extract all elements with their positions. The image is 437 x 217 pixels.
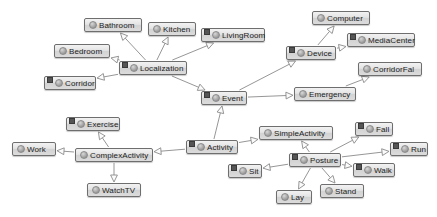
class-node-event[interactable]: Event — [201, 91, 247, 105]
class-node-emergency[interactable]: Emergency — [294, 87, 356, 101]
class-node-label: Exercise — [87, 120, 118, 129]
hollow-triangle-arrow-icon — [263, 164, 270, 171]
class-node-fall[interactable]: Fall — [355, 122, 393, 136]
generalization-edge-walk-to-posture — [342, 162, 352, 169]
class-node-computer[interactable]: Computer — [312, 11, 370, 25]
class-circle-icon — [80, 151, 88, 159]
class-node-label: Event — [222, 94, 243, 103]
abstract-square-icon — [358, 123, 364, 129]
generalization-edge-sit-to-posture — [263, 164, 288, 171]
hollow-triangle-arrow-icon — [339, 44, 347, 51]
hollow-triangle-arrow-icon — [382, 149, 389, 156]
class-node-label: Stand — [335, 187, 356, 196]
class-node-work[interactable]: Work — [12, 142, 56, 156]
class-node-label: ComplexActivity — [90, 151, 148, 160]
generalization-edge-stand-to-posture — [322, 168, 335, 183]
class-circle-icon — [130, 64, 138, 72]
class-node-run[interactable]: Run — [390, 142, 428, 156]
hollow-triangle-arrow-icon — [206, 43, 214, 49]
abstract-square-icon — [189, 141, 195, 147]
abstract-square-icon — [47, 77, 53, 83]
class-node-corridorfal[interactable]: CorridorFal — [358, 62, 422, 76]
hollow-triangle-arrow-icon — [162, 37, 168, 45]
abstract-square-icon — [350, 34, 356, 40]
class-node-device[interactable]: Device — [286, 46, 336, 60]
class-node-sit[interactable]: Sit — [228, 164, 262, 178]
class-node-watchtv[interactable]: WatchTV — [87, 183, 141, 197]
generalization-edge-simpleactivity-to-posture — [302, 141, 310, 152]
hollow-triangle-arrow-icon — [299, 181, 305, 189]
class-circle-icon — [363, 65, 371, 73]
class-node-simpleactivity[interactable]: SimpleActivity — [259, 126, 333, 140]
generalization-edge-event-to-activity — [214, 106, 224, 139]
class-node-label: Device — [307, 49, 332, 58]
class-node-label: Bathroom — [99, 21, 134, 30]
class-node-label: Computer — [327, 14, 363, 23]
hollow-triangle-arrow-icon — [286, 92, 293, 99]
generalization-edge-kitchen-to-localization — [157, 37, 168, 60]
abstract-square-icon — [231, 165, 237, 171]
class-node-label: Lay — [291, 193, 304, 202]
hollow-triangle-arrow-icon — [288, 61, 296, 67]
class-circle-icon — [239, 167, 247, 175]
class-circle-icon — [55, 79, 63, 87]
class-node-walk[interactable]: Walk — [353, 163, 395, 177]
generalization-edge-exercise-to-complexactivity — [98, 132, 108, 147]
class-circle-icon — [358, 36, 366, 44]
generalization-edge-mediacenter-to-device — [337, 44, 346, 51]
class-node-mediacenter[interactable]: MediaCenter — [347, 33, 415, 47]
class-circle-icon — [77, 120, 85, 128]
class-node-label: Run — [411, 145, 426, 154]
abstract-square-icon — [204, 92, 210, 98]
class-circle-icon — [17, 145, 25, 153]
hollow-triangle-arrow-icon — [345, 162, 352, 169]
class-circle-icon — [299, 90, 307, 98]
abstract-square-icon — [69, 118, 75, 124]
generalization-edge-run-to-posture — [342, 149, 389, 157]
class-node-complexactivity[interactable]: ComplexActivity — [75, 148, 153, 162]
class-node-lay[interactable]: Lay — [276, 190, 312, 204]
class-circle-icon — [89, 21, 97, 29]
class-node-posture[interactable]: Posture — [289, 153, 341, 167]
class-node-label: Corridor — [65, 79, 95, 88]
class-node-stand[interactable]: Stand — [320, 184, 364, 198]
class-node-bedroom[interactable]: Bedroom — [54, 44, 110, 58]
hollow-triangle-arrow-icon — [251, 137, 258, 144]
abstract-square-icon — [393, 143, 399, 149]
abstract-square-icon — [289, 47, 295, 53]
class-node-label: WatchTV — [102, 186, 135, 195]
class-node-label: Localization — [140, 64, 183, 73]
hollow-triangle-arrow-icon — [111, 56, 119, 63]
class-circle-icon — [264, 129, 272, 137]
class-node-bathroom[interactable]: Bathroom — [84, 18, 142, 32]
generalization-edge-livingroom-to-localization — [172, 43, 213, 60]
class-node-livingroom[interactable]: LivingRoom — [201, 28, 265, 42]
generalization-edge-bathroom-to-localization — [120, 33, 145, 60]
diagram-canvas[interactable]: BathroomKitchenLivingRoomBedroomCorridor… — [0, 0, 437, 217]
hollow-triangle-arrow-icon — [351, 137, 359, 143]
class-circle-icon — [197, 143, 205, 151]
hollow-triangle-arrow-icon — [217, 106, 224, 114]
generalization-edge-device-to-event — [239, 61, 295, 90]
class-node-exercise[interactable]: Exercise — [66, 117, 120, 131]
class-circle-icon — [401, 145, 409, 153]
class-node-localization[interactable]: Localization — [119, 61, 187, 75]
class-node-label: MediaCenter — [368, 36, 415, 45]
hollow-triangle-arrow-icon — [361, 76, 369, 82]
class-circle-icon — [59, 47, 67, 55]
class-node-activity[interactable]: Activity — [186, 140, 238, 154]
class-circle-icon — [153, 25, 161, 33]
class-node-label: Posture — [310, 156, 338, 165]
class-node-kitchen[interactable]: Kitchen — [148, 22, 196, 36]
hollow-triangle-arrow-icon — [302, 141, 309, 149]
hollow-triangle-arrow-icon — [154, 148, 161, 155]
class-circle-icon — [366, 125, 374, 133]
generalization-edge-complexactivity-to-activity — [154, 148, 185, 155]
generalization-edge-work-to-complexactivity — [57, 148, 74, 155]
class-node-label: Bedroom — [69, 47, 102, 56]
abstract-square-icon — [356, 164, 362, 170]
generalization-edge-simpleactivity-to-activity — [239, 137, 258, 144]
hollow-triangle-arrow-icon — [111, 175, 118, 182]
class-circle-icon — [300, 156, 308, 164]
class-node-corridor[interactable]: Corridor — [44, 76, 96, 90]
